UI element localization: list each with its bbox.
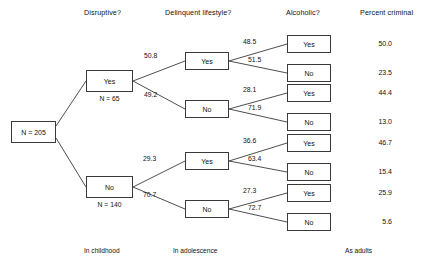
node-delinquent-no-upper[interactable]: No [185, 100, 229, 118]
edge-root-no [56, 138, 86, 187]
edge-l2c-no [229, 161, 287, 172]
node-delinquent-no-lower-label: No [203, 206, 212, 213]
leaf-2-label: No [305, 70, 314, 77]
leaf-4-label: No [305, 119, 314, 126]
node-disruptive-yes[interactable]: Yes [86, 70, 133, 92]
edge-label-yes-no: 51.5 [248, 56, 261, 63]
edge-label-root-no: 49.2 [144, 91, 157, 98]
node-disruptive-no-label: No [105, 184, 114, 191]
percent-5: 46.7 [352, 139, 392, 146]
leaf-5[interactable]: Yes [287, 134, 331, 152]
node-root-label: N = 205 [21, 129, 46, 136]
footer-as-adults: As adults [345, 247, 372, 254]
leaf-5-label: Yes [303, 140, 314, 147]
node-root[interactable]: N = 205 [11, 121, 56, 143]
leaf-3[interactable]: Yes [287, 84, 331, 102]
edge-label-root-yes: 50.8 [144, 52, 157, 59]
edge-label-no-no: 71.9 [248, 104, 261, 111]
edge-label-no-yes: 28.1 [243, 86, 256, 93]
footer-in-adolescence: In adolescence [173, 247, 217, 254]
percent-1: 50.0 [352, 40, 392, 47]
header-delinquent: Delinquent lifestyle? [165, 8, 231, 17]
node-delinquent-no-lower[interactable]: No [185, 200, 229, 218]
footer-in-childhood: In childhood [84, 247, 120, 254]
percent-2: 23.5 [352, 69, 392, 76]
leaf-8[interactable]: No [287, 213, 331, 231]
edge-label-lower-yes-branch: 29.3 [143, 155, 156, 162]
edge-label-lno-no: 72.7 [248, 204, 261, 211]
edge-label-lyes-yes: 36.6 [243, 137, 256, 144]
edge-yes-yes [133, 61, 185, 81]
leaf-1-label: Yes [303, 41, 314, 48]
leaf-8-label: No [305, 219, 314, 226]
leaf-6-label: No [305, 169, 314, 176]
percent-4: 13.0 [352, 118, 392, 125]
leaf-1[interactable]: Yes [287, 35, 331, 53]
header-alcoholic: Alcoholic? [286, 8, 320, 17]
leaf-7-label: Yes [303, 190, 314, 197]
edge-label-lower-no-branch: 70.7 [143, 191, 156, 198]
percent-6: 15.4 [352, 168, 392, 175]
node-delinquent-yes-lower-label: Yes [201, 158, 212, 165]
edge-yes-no [133, 81, 185, 109]
node-delinquent-yes-lower[interactable]: Yes [185, 152, 229, 170]
percent-8: 5.6 [352, 218, 392, 225]
edge-label-yes-yes: 48.5 [243, 38, 256, 45]
leaf-2[interactable]: No [287, 64, 331, 82]
edge-label-lno-yes: 27.3 [243, 187, 256, 194]
node-delinquent-yes-upper[interactable]: Yes [185, 52, 229, 70]
leaf-4[interactable]: No [287, 113, 331, 131]
leaf-3-label: Yes [303, 90, 314, 97]
node-disruptive-no-count: N = 140 [86, 201, 133, 208]
leaf-7[interactable]: Yes [287, 184, 331, 202]
header-percent-criminal: Percent criminal [360, 8, 413, 17]
node-disruptive-no[interactable]: No [86, 176, 133, 198]
percent-7: 25.9 [352, 189, 392, 196]
edge-no-yes [133, 161, 185, 187]
edge-no-no [133, 187, 185, 209]
percent-3: 44.4 [352, 89, 392, 96]
header-disruptive: Disruptive? [84, 8, 121, 17]
node-disruptive-yes-count: N = 65 [86, 95, 133, 102]
edge-label-lyes-no: 63.4 [248, 155, 261, 162]
node-delinquent-no-upper-label: No [203, 106, 212, 113]
node-delinquent-yes-upper-label: Yes [201, 58, 212, 65]
leaf-6[interactable]: No [287, 163, 331, 181]
node-disruptive-yes-label: Yes [104, 78, 115, 85]
edge-root-yes [56, 81, 86, 126]
